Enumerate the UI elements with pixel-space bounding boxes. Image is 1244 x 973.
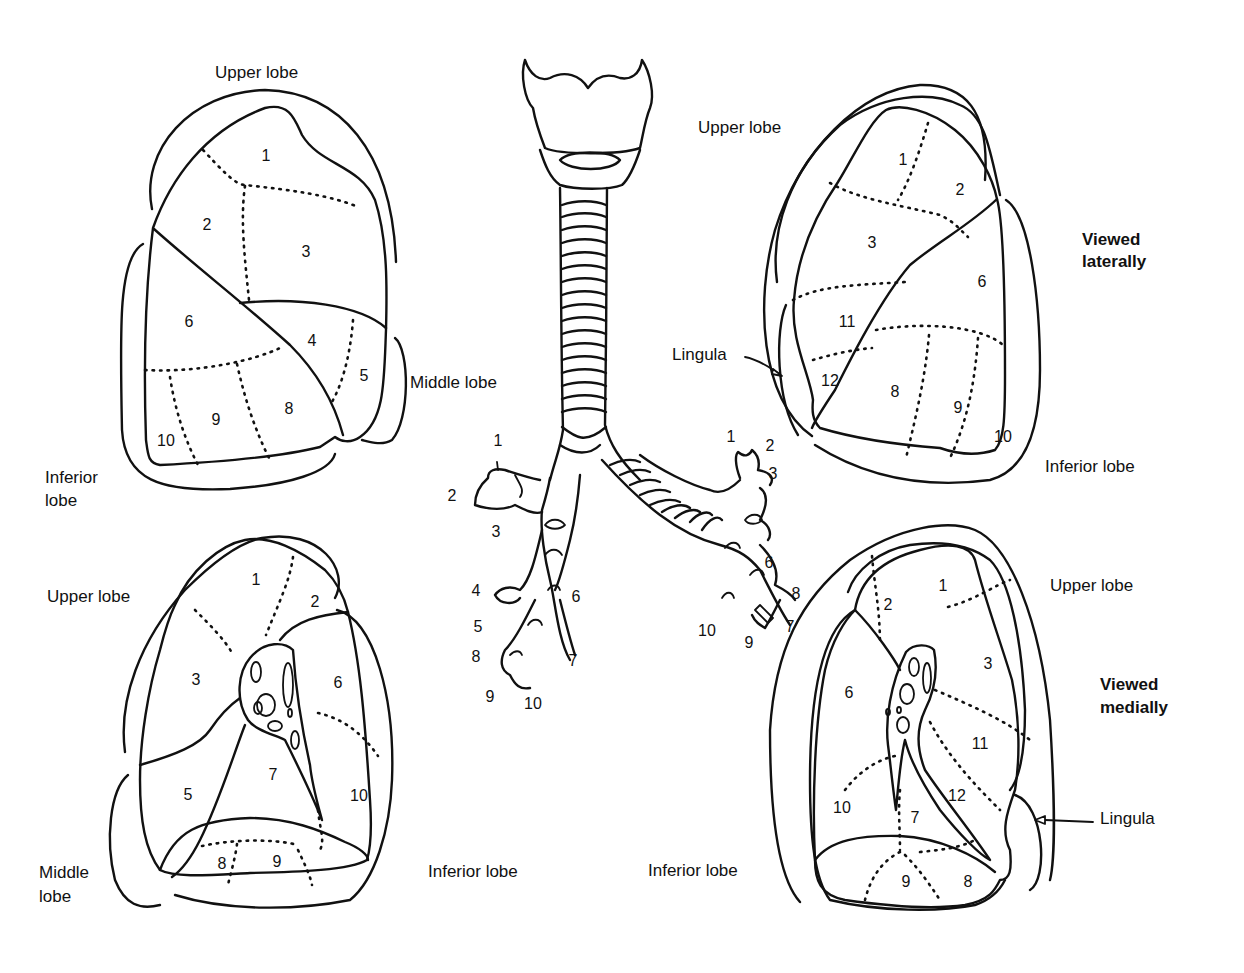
tr-inferior-lobe-label: Inferior lobe bbox=[1045, 457, 1135, 477]
lobe-bracket-upper-outer bbox=[764, 85, 986, 436]
rb-segment-5: 5 bbox=[474, 618, 483, 636]
segment-12: 12 bbox=[821, 372, 839, 390]
segment-8: 8 bbox=[285, 400, 294, 418]
tr-view-label-1: Viewed bbox=[1082, 229, 1140, 251]
segment-11: 11 bbox=[839, 313, 856, 331]
tl-middle-lobe-label: Middle lobe bbox=[410, 373, 497, 393]
lingula-bracket bbox=[1015, 795, 1041, 890]
lb-segment-7: 7 bbox=[786, 618, 795, 636]
bl-middle-lobe-label-1: Middle bbox=[39, 863, 89, 883]
segment-3: 3 bbox=[984, 655, 993, 673]
segment-7: 7 bbox=[911, 809, 920, 827]
segment-9: 9 bbox=[954, 399, 963, 417]
segment-3: 3 bbox=[302, 243, 311, 261]
segment-12: 12 bbox=[948, 787, 966, 805]
segment-9: 9 bbox=[212, 411, 221, 429]
lung-outline bbox=[814, 546, 1019, 907]
segment-8: 8 bbox=[891, 383, 900, 401]
left-lung-lateral-view bbox=[745, 85, 1040, 483]
bl-inferior-lobe-label: Inferior lobe bbox=[428, 862, 518, 882]
lb-segment-9: 9 bbox=[745, 634, 754, 652]
lingula-arrow bbox=[1045, 820, 1093, 822]
segment-10: 10 bbox=[833, 799, 851, 817]
bronchial-tree bbox=[475, 60, 795, 688]
lobe-bracket-inferior bbox=[121, 244, 335, 489]
lobe-bracket-upper bbox=[150, 90, 396, 262]
right-lung-medial-view bbox=[110, 536, 392, 907]
segment-2: 2 bbox=[956, 181, 965, 199]
segment-6: 6 bbox=[978, 273, 987, 291]
segment-6: 6 bbox=[185, 313, 194, 331]
lung-outline bbox=[140, 539, 371, 875]
lobe-bracket-middle bbox=[110, 775, 160, 907]
horizontal-fissure bbox=[240, 301, 386, 328]
segment-1: 1 bbox=[899, 151, 908, 169]
segment-9: 9 bbox=[902, 873, 911, 891]
lb-segment-3: 3 bbox=[769, 465, 778, 483]
lb-segment-6: 6 bbox=[765, 554, 774, 572]
rb-segment-1: 1 bbox=[494, 432, 503, 450]
inferior-surface bbox=[160, 818, 368, 870]
br-upper-lobe-label: Upper lobe bbox=[1050, 576, 1133, 596]
rb-segment-3: 3 bbox=[492, 523, 501, 541]
horizontal-fissure bbox=[140, 698, 240, 765]
segment-8: 8 bbox=[218, 855, 227, 873]
lb-segment-1: 1 bbox=[727, 428, 736, 446]
br-view-label-1: Viewed bbox=[1100, 674, 1158, 696]
rb-segment-4: 4 bbox=[472, 582, 481, 600]
segment-10: 10 bbox=[350, 787, 368, 805]
lb-segment-2: 2 bbox=[766, 437, 775, 455]
segment-10: 10 bbox=[157, 432, 175, 450]
bl-middle-lobe-label-2: lobe bbox=[39, 887, 71, 907]
br-view-label-2: medially bbox=[1100, 697, 1168, 719]
segment-3: 3 bbox=[192, 671, 201, 689]
segment-11: 11 bbox=[972, 735, 989, 753]
segment-7: 7 bbox=[269, 766, 278, 784]
segment-5: 5 bbox=[184, 786, 193, 804]
lb-segment-10: 10 bbox=[698, 622, 716, 640]
oblique-fissure-upper bbox=[280, 612, 348, 640]
segment-1: 1 bbox=[262, 147, 271, 165]
segment-9: 9 bbox=[273, 853, 282, 871]
br-lingula-label: Lingula bbox=[1100, 809, 1155, 829]
rb-segment-9: 9 bbox=[486, 688, 495, 706]
lb-segment-8: 8 bbox=[792, 585, 801, 603]
tl-inferior-lobe-label-1: Inferior bbox=[45, 468, 98, 488]
segment-5: 5 bbox=[360, 367, 369, 385]
rb-segment-6: 6 bbox=[572, 588, 581, 606]
segment-10: 10 bbox=[994, 428, 1012, 446]
segment-1: 1 bbox=[252, 571, 261, 589]
diagram-artwork bbox=[0, 0, 1244, 973]
tr-upper-lobe-label: Upper lobe bbox=[698, 118, 781, 138]
tl-upper-lobe-label: Upper lobe bbox=[215, 63, 298, 83]
segment-3: 3 bbox=[868, 234, 877, 252]
segment-8: 8 bbox=[964, 873, 973, 891]
rb-segment-8: 8 bbox=[472, 648, 481, 666]
trachea-right-wall bbox=[605, 188, 640, 480]
larynx-thyroid-cartilage bbox=[523, 60, 652, 153]
br-inferior-lobe-label: Inferior lobe bbox=[648, 861, 738, 881]
segment-2: 2 bbox=[884, 596, 893, 614]
segment-2: 2 bbox=[203, 216, 212, 234]
segment-6: 6 bbox=[845, 684, 854, 702]
segment-6: 6 bbox=[334, 674, 343, 692]
tr-view-label-2: laterally bbox=[1082, 251, 1146, 273]
rb-segment-10: 10 bbox=[524, 695, 542, 713]
left-lung-medial-view bbox=[770, 525, 1093, 909]
tr-lingula-label: Lingula bbox=[672, 345, 727, 365]
rb-segment-7: 7 bbox=[569, 652, 578, 670]
tl-inferior-lobe-label-2: lobe bbox=[45, 491, 77, 511]
lobe-bracket-inferior bbox=[810, 610, 1005, 910]
segment-4: 4 bbox=[308, 332, 317, 350]
segment-2: 2 bbox=[311, 593, 320, 611]
lobe-bracket-upper bbox=[124, 536, 339, 752]
bl-upper-lobe-label: Upper lobe bbox=[47, 587, 130, 607]
lobe-bracket-upper-inner bbox=[776, 97, 1000, 282]
anterior-border bbox=[855, 610, 900, 670]
segment-1: 1 bbox=[939, 577, 948, 595]
rb-segment-2: 2 bbox=[448, 487, 457, 505]
